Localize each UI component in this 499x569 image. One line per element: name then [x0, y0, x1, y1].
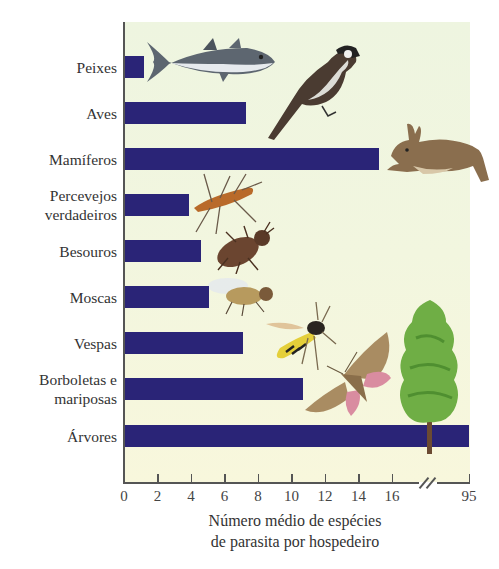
- bar: [124, 102, 246, 124]
- category-label: Besouros: [59, 242, 117, 261]
- x-axis: [123, 482, 419, 484]
- category-label: Árvores: [67, 427, 117, 446]
- tree-icon: [396, 298, 464, 456]
- bar: [124, 194, 189, 216]
- x-tick-label: 8: [254, 488, 262, 505]
- x-tick-label: 14: [351, 488, 366, 505]
- x-tick: [469, 474, 471, 482]
- x-tick: [224, 474, 226, 482]
- bar: [124, 332, 243, 354]
- bar: [124, 56, 144, 78]
- x-axis-title-line1: Número médio de espécies: [160, 510, 430, 531]
- x-tick-label: 16: [385, 488, 400, 505]
- category-label: Mamíferos: [49, 150, 117, 169]
- beetle-icon: [208, 218, 276, 274]
- x-tick: [358, 474, 360, 482]
- bar: [124, 148, 379, 170]
- bar: [124, 286, 209, 308]
- bar: [124, 240, 201, 262]
- x-tick-label: 4: [187, 488, 195, 505]
- x-tick: [157, 474, 159, 482]
- category-label: Percevejosverdadeiros: [45, 186, 117, 224]
- x-tick-label: 10: [284, 488, 299, 505]
- rabbit-icon: [383, 120, 491, 188]
- bar-chart: PeixesAvesMamíferosPercevejosverdadeiros…: [0, 0, 499, 569]
- x-tick-label: 12: [318, 488, 333, 505]
- x-tick: [258, 474, 260, 482]
- x-axis-title-line2: de parasita por hospedeiro: [160, 531, 430, 552]
- category-label: Moscas: [70, 288, 117, 307]
- category-label: Peixes: [77, 58, 117, 77]
- x-tick-label: 6: [221, 488, 229, 505]
- x-tick: [325, 474, 327, 482]
- x-tick-label: 2: [154, 488, 162, 505]
- x-tick-label: 95: [462, 488, 477, 505]
- moth-icon: [303, 328, 395, 418]
- category-label: Aves: [86, 104, 117, 123]
- x-tick: [392, 474, 394, 482]
- x-axis-title: Número médio de espécies de parasita por…: [160, 510, 430, 552]
- x-tick-label: 0: [120, 488, 128, 505]
- bird-icon: [262, 38, 362, 142]
- fish-icon: [143, 36, 278, 88]
- x-tick: [291, 474, 293, 482]
- x-tick: [191, 474, 193, 482]
- category-label: Borboletas emariposas: [39, 370, 117, 408]
- y-axis: [123, 22, 125, 483]
- bar: [124, 378, 303, 400]
- x-axis-after-break: [437, 482, 470, 484]
- category-label: Vespas: [74, 334, 117, 353]
